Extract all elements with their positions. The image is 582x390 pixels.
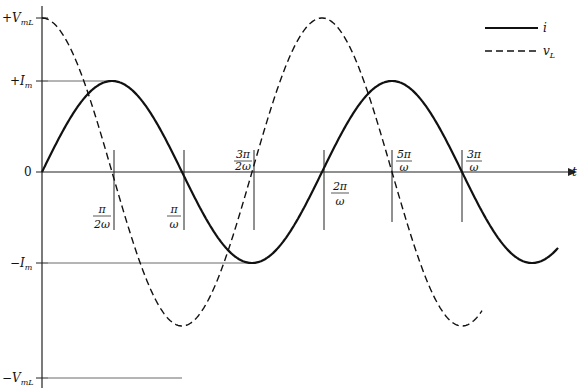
x-tick-label-3pi-over-w: 3π ω	[466, 148, 482, 174]
svg-text:2π: 2π	[332, 180, 348, 193]
x-tick-label-3pi-over-2w: 3π 2ω 2ω	[234, 148, 252, 173]
svg-text:3π: 3π	[467, 148, 482, 161]
x-tick-lines	[114, 150, 462, 230]
legend-label-vL: vL	[543, 44, 555, 60]
y-label-v-max: +VmL	[2, 11, 34, 27]
svg-text:ω: ω	[470, 161, 479, 174]
x-tick-label-5pi-over-w: 5π ω	[396, 148, 412, 174]
legend: i vL	[485, 21, 555, 60]
y-label-i-max: +Im	[10, 74, 33, 90]
x-tick-label-pi-over-w: π ω	[167, 203, 181, 231]
x-tick-label-pi-over-2w: π 2ω	[93, 203, 111, 231]
legend-label-i: i	[543, 21, 547, 35]
svg-text:ω: ω	[336, 195, 345, 208]
y-label-i-min: −Im	[10, 256, 33, 272]
x-tick-label-2pi-over-w: 2π ω	[331, 180, 349, 208]
y-label-v-min: −VmL	[2, 371, 34, 387]
inductor-waveform-diagram: t 0 +VmL +Im −Im −VmL π 2ω π ω 3π 2ω 2ω …	[0, 0, 582, 390]
svg-text:π: π	[97, 203, 106, 216]
svg-text:2ω: 2ω	[93, 218, 110, 231]
x-axis-label: t	[572, 165, 577, 179]
origin-label: 0	[24, 165, 32, 179]
svg-text:2ω: 2ω	[234, 160, 251, 173]
svg-text:π: π	[169, 203, 178, 216]
svg-text:ω: ω	[170, 218, 179, 231]
svg-text:5π: 5π	[397, 148, 412, 161]
svg-text:ω: ω	[400, 161, 409, 174]
